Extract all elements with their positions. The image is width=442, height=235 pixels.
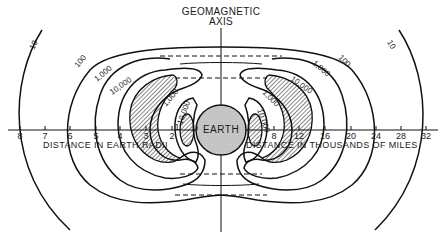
tick-right-32: 32 (421, 131, 431, 141)
earth-label: EARTH (203, 124, 239, 135)
contour-label-100-right: 100 (337, 53, 353, 69)
tick-left-8: 8 (17, 131, 22, 141)
contour-label-10000-left: 10,000 (108, 75, 134, 97)
contour-label-10-right: 10 (385, 39, 398, 52)
contour-label-10-left: 10 (28, 38, 40, 50)
axis-label-earth-radii: DISTANCE IN EARTH RADII (43, 140, 168, 150)
title-line2: AXIS (209, 16, 233, 27)
contour-label-1000-right: 1,000 (311, 59, 333, 79)
radiation-belt-diagram: GEOMAGNETIC AXIS EARTH (0, 0, 442, 235)
contour-label-1000-left: 1,000 (93, 63, 115, 83)
contour-label-100-left: 100 (73, 53, 89, 69)
tick-left-2: 2 (169, 131, 174, 141)
axis-label-thousand-miles: DISTANCE IN THOUSANDS OF MILES (246, 140, 418, 150)
